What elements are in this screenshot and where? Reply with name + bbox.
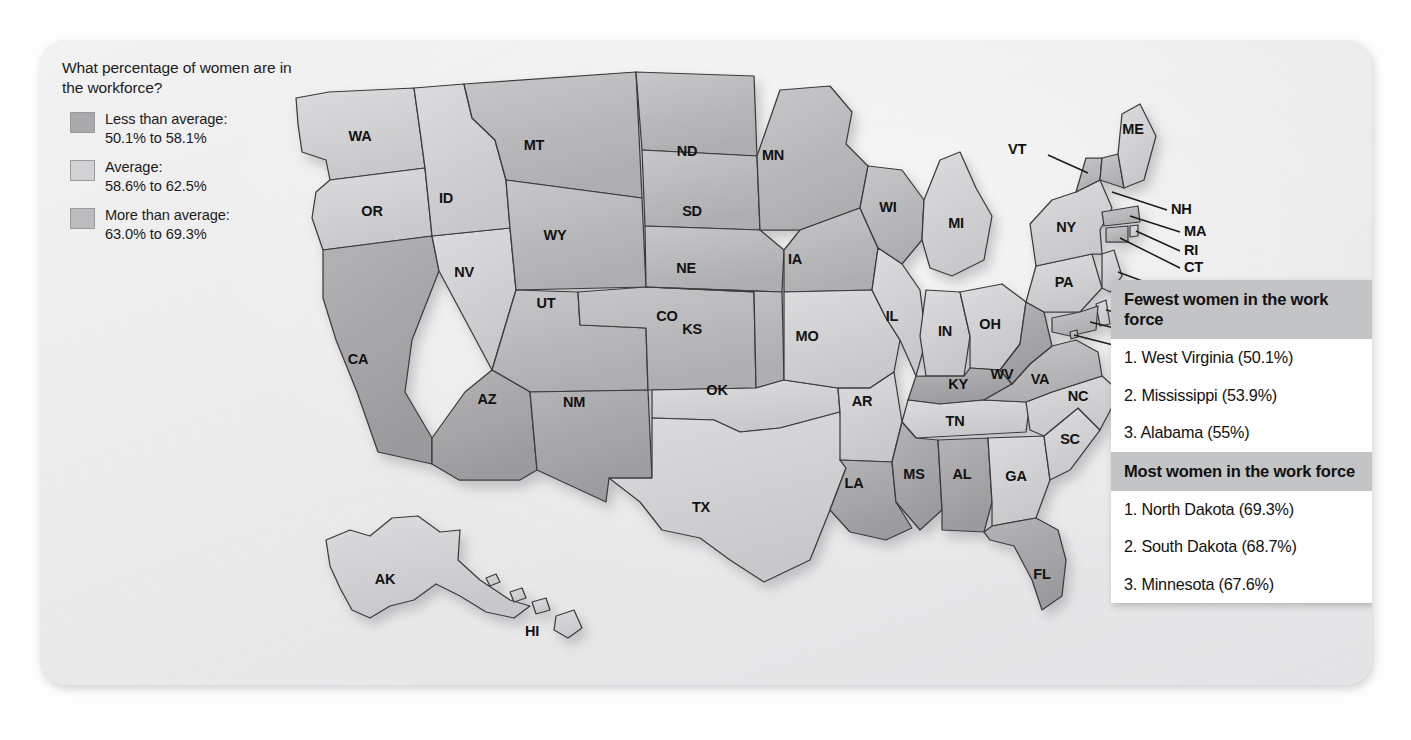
label-CT: CT [1184, 259, 1203, 275]
state-HI-1[interactable] [486, 574, 500, 586]
label-WY: WY [544, 227, 567, 243]
label-PA: PA [1055, 274, 1074, 290]
panel-item-most-1: 1. North Dakota (69.3%) [1111, 491, 1372, 528]
state-NE[interactable] [645, 226, 784, 292]
label-CA: CA [348, 351, 369, 367]
label-SC: SC [1060, 431, 1080, 447]
label-MO: MO [796, 328, 819, 344]
legend-item-more-than-average: More than average: 63.0% to 69.3% [62, 206, 312, 243]
legend-swatch-less-than-average [70, 112, 95, 133]
label-MN: MN [762, 147, 784, 163]
state-HI-2[interactable] [510, 588, 526, 602]
map-card: WA OR CA NV ID MT WY UT AZ NM CO ND SD N… [40, 40, 1372, 685]
legend-range-text: 58.6% to 62.5% [105, 178, 207, 194]
state-AL[interactable] [938, 438, 992, 532]
label-ID: ID [439, 190, 453, 206]
leader-CT [1120, 238, 1180, 268]
panel-item-most-3: 3. Minnesota (67.6%) [1111, 566, 1372, 603]
label-AR: AR [852, 393, 873, 409]
leader-RI [1136, 231, 1180, 251]
label-MS: MS [903, 466, 925, 482]
label-NE: NE [676, 260, 696, 276]
label-WI: WI [879, 199, 896, 215]
label-TN: TN [946, 413, 965, 429]
label-ND: ND [677, 143, 698, 159]
state-WY[interactable] [506, 180, 646, 290]
legend-range-text: 50.1% to 58.1% [105, 130, 207, 146]
label-ME: ME [1122, 121, 1144, 137]
label-AZ: AZ [478, 391, 497, 407]
label-MI: MI [948, 215, 964, 231]
state-DC[interactable] [1070, 330, 1078, 339]
label-IA: IA [788, 251, 803, 267]
map-states-group [296, 72, 1156, 638]
state-ME[interactable] [1118, 104, 1156, 188]
label-MT: MT [524, 137, 545, 153]
label-LA: LA [845, 475, 865, 491]
label-UT: UT [537, 295, 556, 311]
state-TN[interactable] [902, 400, 1030, 438]
legend-label-text: Less than average: [105, 111, 227, 127]
panel-item-fewest-3: 3. Alabama (55%) [1111, 414, 1372, 451]
label-OH: OH [979, 316, 1000, 332]
label-MA: MA [1184, 223, 1207, 239]
panel-title-fewest: Fewest women in the work force [1111, 280, 1372, 339]
legend-label-more-than-average: More than average: 63.0% to 69.3% [105, 206, 230, 243]
label-WV: WV [991, 366, 1014, 382]
label-TX: TX [692, 499, 711, 515]
legend-question: What percentage of women are in the work… [62, 58, 312, 97]
label-IN: IN [938, 323, 952, 339]
legend-label-text: More than average: [105, 207, 230, 223]
label-CO: CO [656, 308, 677, 324]
state-HI-4[interactable] [554, 610, 582, 638]
label-NY: NY [1056, 219, 1076, 235]
label-GA: GA [1005, 468, 1027, 484]
label-OR: OR [361, 203, 383, 219]
legend-label-less-than-average: Less than average: 50.1% to 58.1% [105, 110, 227, 147]
legend-label-average: Average: 58.6% to 62.5% [105, 158, 207, 195]
leader-VT [1048, 155, 1088, 173]
label-VA: VA [1031, 371, 1050, 387]
legend-swatch-average [70, 160, 95, 181]
legend-item-average: Average: 58.6% to 62.5% [62, 158, 312, 195]
label-IL: IL [886, 308, 899, 324]
panel-item-fewest-1: 1. West Virginia (50.1%) [1111, 339, 1372, 376]
label-AK: AK [375, 571, 396, 587]
label-NH: NH [1171, 201, 1192, 217]
legend-item-less-than-average: Less than average: 50.1% to 58.1% [62, 110, 312, 147]
label-OK: OK [706, 382, 728, 398]
legend-range-text: 63.0% to 69.3% [105, 226, 207, 242]
state-AZ[interactable] [432, 370, 537, 480]
label-KS: KS [682, 321, 702, 337]
label-AL: AL [953, 466, 972, 482]
map-legend: What percentage of women are in the work… [62, 58, 312, 255]
state-AK[interactable] [326, 516, 530, 618]
legend-swatch-more-than-average [70, 208, 95, 229]
panel-item-fewest-2: 2. Mississippi (53.9%) [1111, 377, 1372, 414]
label-WA: WA [349, 128, 373, 144]
label-HI: HI [525, 623, 539, 639]
legend-label-text: Average: [105, 159, 162, 175]
label-RI: RI [1184, 242, 1198, 258]
label-SD: SD [682, 203, 702, 219]
state-CA[interactable] [323, 236, 439, 464]
state-DE[interactable] [1096, 300, 1110, 326]
label-NM: NM [563, 394, 585, 410]
state-FL[interactable] [984, 518, 1066, 610]
label-KY: KY [948, 376, 968, 392]
panel-item-most-2: 2. South Dakota (68.7%) [1111, 528, 1372, 565]
label-FL: FL [1033, 566, 1051, 582]
label-NV: NV [454, 264, 474, 280]
panel-title-most: Most women in the work force [1111, 452, 1372, 491]
state-HI-3[interactable] [532, 598, 550, 614]
infographic-root: WA OR CA NV ID MT WY UT AZ NM CO ND SD N… [0, 0, 1411, 740]
ranking-panels: Fewest women in the work force 1. West V… [1111, 280, 1372, 603]
label-NC: NC [1068, 388, 1089, 404]
label-VT: VT [1008, 141, 1027, 157]
leader-NH [1112, 192, 1167, 210]
